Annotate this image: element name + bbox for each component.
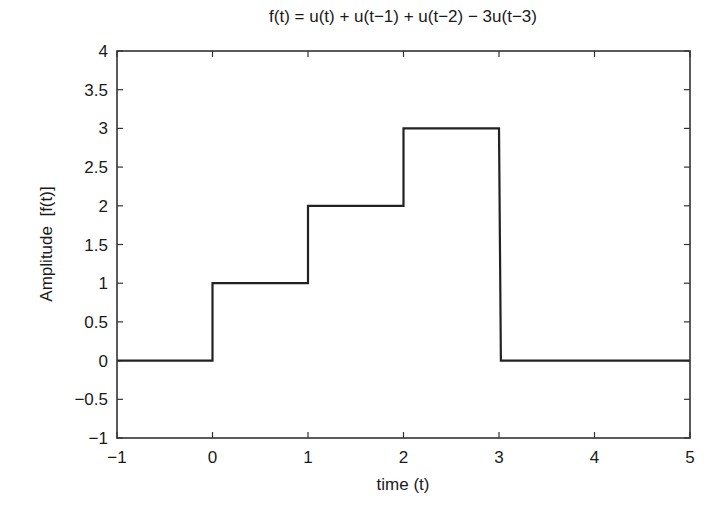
y-tick-label: 2.5 [84, 158, 108, 177]
x-axis-ticks: −1012345 [107, 51, 694, 467]
x-tick-label: −1 [107, 448, 126, 467]
axes-box [117, 51, 690, 438]
y-tick-label: 0 [99, 352, 108, 371]
y-tick-label: 1 [99, 274, 108, 293]
y-axis-label: Amplitude [f(t)] [37, 186, 56, 301]
y-tick-label: −1 [89, 429, 108, 448]
x-tick-label: 3 [494, 448, 503, 467]
y-axis-ticks: −1−0.500.511.522.533.54 [74, 42, 690, 448]
x-tick-label: 2 [399, 448, 408, 467]
figure: f(t) = u(t) + u(t−1) + u(t−2) − 3u(t−3) … [0, 0, 720, 511]
x-tick-label: 0 [208, 448, 217, 467]
x-tick-label: 4 [590, 448, 599, 467]
y-tick-label: 1.5 [84, 236, 108, 255]
y-tick-label: 2 [99, 197, 108, 216]
x-axis-label: time (t) [377, 475, 430, 494]
y-tick-label: 0.5 [84, 313, 108, 332]
y-tick-label: 4 [99, 42, 108, 61]
y-tick-label: 3 [99, 119, 108, 138]
f-t-step-line [117, 128, 690, 360]
x-tick-label: 5 [685, 448, 694, 467]
chart-title: f(t) = u(t) + u(t−1) + u(t−2) − 3u(t−3) [269, 7, 537, 26]
step-function-plot: f(t) = u(t) + u(t−1) + u(t−2) − 3u(t−3) … [0, 0, 720, 511]
y-tick-label: −0.5 [74, 390, 108, 409]
x-tick-label: 1 [303, 448, 312, 467]
y-tick-label: 3.5 [84, 81, 108, 100]
